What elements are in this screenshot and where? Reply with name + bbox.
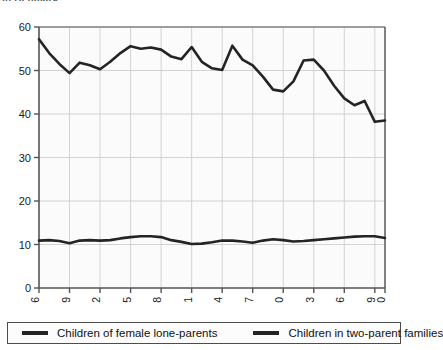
x-tick-label: 2000 [273,297,285,303]
x-tick-label: 1994 [212,297,224,303]
legend-line-icon [22,331,48,335]
plot-svg: 0102030405060 19761979198219851988199119… [0,18,414,303]
x-tick-label: 2010 [375,297,387,303]
clipped-page-title: in Denmark [2,0,58,1]
plot-area: 0102030405060 19761979198219851988199119… [0,18,414,303]
legend-label: Children in two-parent families [288,327,443,339]
y-tick-label: 30 [19,152,31,164]
x-axis-tick-labels: 1976197919821985198819911994199720002003… [29,297,387,303]
y-tick-label: 60 [19,21,31,33]
x-tick-label: 1985 [121,297,133,303]
x-tick-label: 1979 [60,297,72,303]
legend-entry-female-lone-parents: Children of female lone-parents [22,327,217,339]
y-tick-label: 40 [19,108,31,120]
x-tick-label: 2003 [304,297,316,303]
legend-line-icon [253,331,279,335]
y-tick-label: 0 [25,282,31,294]
legend-entry-two-parent-families: Children in two-parent families [253,327,443,339]
x-tick-label: 1997 [243,297,255,303]
chart-legend: Children of female lone-parents Children… [7,322,401,344]
x-tick-label: 1976 [29,297,41,303]
y-tick-label: 50 [19,65,31,77]
x-tick-label: 1988 [151,297,163,303]
x-tick-label: 2006 [334,297,346,303]
x-tick-label: 1982 [90,297,102,303]
legend-label: Children of female lone-parents [57,327,217,339]
y-axis-tick-labels: 0102030405060 [19,21,31,294]
y-tick-label: 10 [19,239,31,251]
y-tick-label: 20 [19,195,31,207]
x-tick-label: 1991 [182,297,194,303]
